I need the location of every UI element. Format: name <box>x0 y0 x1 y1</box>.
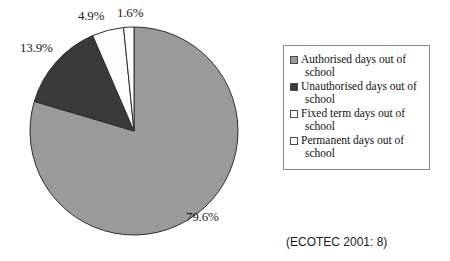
legend-swatch-icon <box>290 110 298 118</box>
pie-chart: 79.6% 13.9% 4.9% 1.6% <box>0 0 262 240</box>
legend-swatch-icon <box>290 137 298 145</box>
legend-item: Fixed term days out of school <box>290 107 424 133</box>
legend-item: Authorised days out of school <box>290 53 424 79</box>
legend-item-label: Fixed term days out of school <box>301 107 424 133</box>
legend-item-label: Unauthorised days out of school <box>301 80 424 106</box>
legend-item: Permanent days out of school <box>290 134 424 160</box>
pie-chart-svg <box>0 0 262 240</box>
legend-item-label: Permanent days out of school <box>301 134 424 160</box>
legend-item: Unauthorised days out of school <box>290 80 424 106</box>
pie-value-label-permanent: 1.6% <box>117 5 143 21</box>
pie-value-label-unauthorised: 13.9% <box>20 40 53 56</box>
pie-value-label-authorised: 79.6% <box>186 209 219 225</box>
legend-item-label: Authorised days out of school <box>301 53 424 79</box>
legend-swatch-icon <box>290 83 298 91</box>
pie-value-label-fixed-term: 4.9% <box>78 8 104 24</box>
chart-legend: Authorised days out of school Unauthoris… <box>283 45 430 170</box>
legend-swatch-icon <box>290 56 298 64</box>
pie-chart-figure: 79.6% 13.9% 4.9% 1.6% Authorised days ou… <box>0 0 450 261</box>
source-citation: (ECOTEC 2001: 8) <box>286 235 387 249</box>
pie-slice-group <box>30 27 238 235</box>
